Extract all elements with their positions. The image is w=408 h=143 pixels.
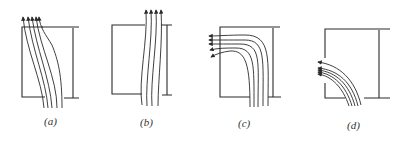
- panel-a-right-wall: [64, 28, 79, 98]
- panel-b-streamlines: [141, 10, 161, 106]
- panel-b-box: [112, 25, 145, 94]
- panel-a-diagram: [22, 17, 79, 108]
- panel-c-right-wall: [268, 28, 281, 97]
- panel-c-streamlines: [209, 35, 268, 107]
- panel-b-label: (b): [140, 116, 153, 128]
- panel-d-label: (d): [347, 119, 360, 131]
- panel-b-diagram: [112, 10, 172, 106]
- panel-c-diagram: [209, 27, 281, 107]
- panel-d-diagram: [318, 29, 390, 106]
- panel-c-label: (c): [238, 117, 250, 129]
- panel-c-box: [220, 27, 280, 97]
- panel-a-label: (a): [44, 115, 57, 127]
- panel-d-right-wall: [364, 30, 390, 98]
- panel-a-streamlines: [23, 17, 62, 108]
- panel-d-box: [325, 29, 390, 58]
- panel-b-right-wall: [161, 25, 172, 95]
